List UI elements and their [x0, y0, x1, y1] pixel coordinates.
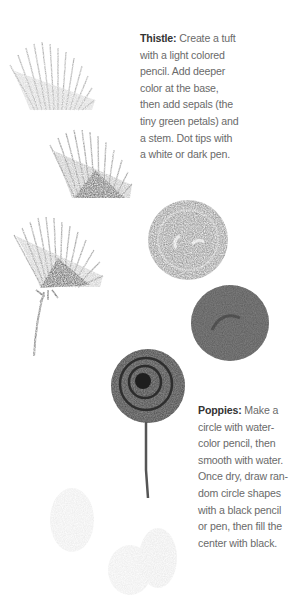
- caption-line: tiny green petals) and: [140, 113, 290, 130]
- caption-line: then add sepals (the: [140, 96, 290, 113]
- thistle-caption: Thistle: Create a tuft with a light colo…: [140, 30, 290, 163]
- poppy-complete: [111, 349, 185, 498]
- caption-line: Poppies: Make a: [198, 402, 291, 419]
- poppies-title: Poppies:: [198, 404, 242, 416]
- poppy-circle-textured: [148, 200, 228, 280]
- caption-line: center with black.: [198, 535, 291, 552]
- caption-line: a stem. Dot tips with: [140, 130, 290, 147]
- caption-line: dom circle shapes: [198, 485, 291, 502]
- thistle-complete: [14, 217, 103, 356]
- caption-line: circle with water-: [198, 419, 291, 436]
- caption-line: color pencil, then: [198, 435, 291, 452]
- caption-line: or pen, then fill the: [198, 518, 291, 535]
- caption-line: color at the base,: [140, 80, 290, 97]
- thistle-title: Thistle:: [140, 32, 176, 44]
- caption-line: Once dry, draw ran-: [198, 468, 291, 485]
- poppy-circle-smoothed: [191, 285, 269, 361]
- caption-line: with a black pencil: [198, 502, 291, 519]
- thistle-tuft-deeper: [50, 130, 132, 198]
- caption-line: smooth with water.: [198, 452, 291, 469]
- thistle-tuft-light: [10, 42, 95, 110]
- poppy-petals-faint: [50, 488, 177, 595]
- caption-line: a white or dark pen.: [140, 146, 290, 163]
- caption-line: Thistle: Create a tuft: [140, 30, 290, 47]
- poppies-caption: Poppies: Make a circle with water- color…: [198, 402, 291, 551]
- caption-line: pencil. Add deeper: [140, 63, 290, 80]
- caption-line: with a light colored: [140, 47, 290, 64]
